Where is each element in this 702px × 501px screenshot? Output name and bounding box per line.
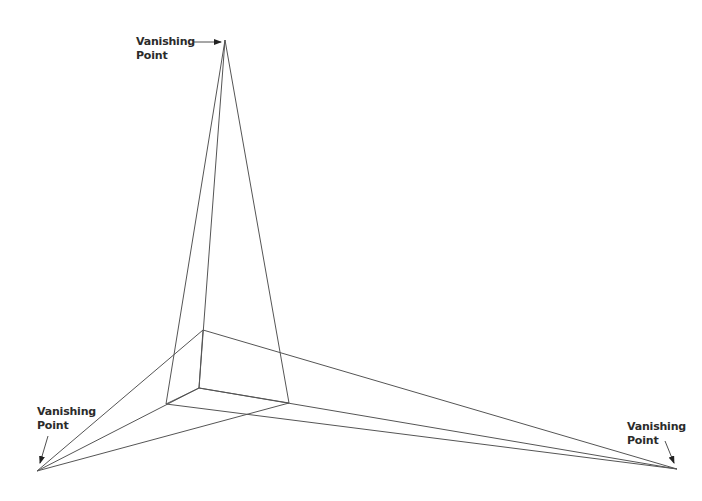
line-left-vertex-to-right-vp [166,404,677,469]
line-top-vertex-to-left-vp [37,330,203,471]
label-top-line1: Vanishing [136,35,195,49]
vanishing-point-label-right: Vanishing Point [627,420,686,448]
box-edge-inner-right [199,388,289,403]
box-edge-front-vertical [199,330,203,388]
construction-lines [37,40,677,471]
vanishing-point-label-left: Vanishing Point [37,405,96,433]
label-arrows [40,42,674,463]
arrow-left-vp [40,436,48,463]
vanishing-point-label-top: Vanishing Point [136,35,195,63]
line-right-vertex-to-top-vp [225,40,289,403]
box-edge-inner-left [166,388,199,404]
label-right-line1: Vanishing [627,420,686,434]
label-right-line2: Point [627,434,686,448]
line-left-vertex-to-top-vp [166,40,225,404]
perspective-diagram [0,0,702,501]
line-top-vertex-to-right-vp [203,330,677,469]
label-left-line1: Vanishing [37,405,96,419]
label-left-line2: Point [37,419,96,433]
label-top-line2: Point [136,49,195,63]
